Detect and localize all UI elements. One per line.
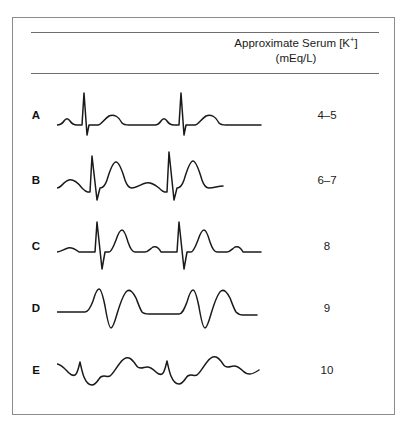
- ecg-waveform-path-a: [57, 93, 261, 135]
- column-header-suffix: ]: [354, 37, 357, 49]
- ecg-tracing-c: [57, 214, 267, 274]
- ecg-row-c: C 8: [13, 214, 394, 274]
- ecg-waveform-path-e: [57, 357, 259, 385]
- row-label-c: C: [27, 240, 45, 252]
- ecg-waveform-path-d: [57, 289, 257, 328]
- ecg-waveform-path-b: [57, 152, 223, 200]
- column-header-prefix: Approximate Serum [K: [234, 37, 350, 49]
- ecg-row-b: B 6–7: [13, 148, 394, 208]
- column-header-line-1: Approximate Serum [K+]: [213, 36, 379, 51]
- header-rule-bottom: [31, 73, 379, 74]
- row-label-d: D: [27, 302, 45, 314]
- row-value-b: 6–7: [275, 174, 379, 186]
- ecg-tracing-e: [57, 338, 267, 398]
- row-label-a: A: [27, 109, 45, 121]
- ecg-tracing-a: [57, 83, 267, 143]
- row-value-e: 10: [275, 364, 379, 376]
- ecg-row-d: D 9: [13, 276, 394, 336]
- column-header-serum-potassium: Approximate Serum [K+] (mEq/L): [213, 36, 379, 66]
- figure-frame: Approximate Serum [K+] (mEq/L) A 4–5 B 6…: [12, 17, 395, 415]
- ecg-waveform-path-c: [57, 222, 261, 269]
- row-value-a: 4–5: [275, 109, 379, 121]
- row-value-d: 9: [275, 302, 379, 314]
- ecg-tracing-d: [57, 276, 267, 336]
- row-label-e: E: [27, 364, 45, 376]
- column-header-units: (mEq/L): [213, 51, 379, 66]
- ecg-row-a: A 4–5: [13, 83, 394, 143]
- ecg-tracing-b: [57, 148, 267, 208]
- row-value-c: 8: [275, 240, 379, 252]
- row-label-b: B: [27, 174, 45, 186]
- ecg-row-e: E 10: [13, 338, 394, 398]
- header-rule-top: [31, 32, 379, 33]
